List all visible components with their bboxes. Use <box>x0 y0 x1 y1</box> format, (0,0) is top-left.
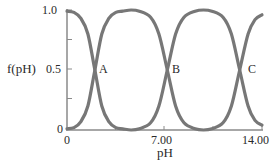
y-axis-title-text: f(pH) <box>7 61 36 76</box>
series-curves <box>67 10 262 130</box>
x-tick-label-14: 14.00 <box>242 134 269 146</box>
x-tick-label-0: 0 <box>64 134 70 146</box>
x-axis-title: pH <box>157 147 173 159</box>
chart-plot <box>0 0 280 161</box>
y-tick-label-0: 0 <box>57 123 63 135</box>
y-axis-title: f(pH) <box>7 63 36 75</box>
crossing-label-a: A <box>99 63 108 75</box>
curve-2-line <box>67 10 262 130</box>
crossing-label-b: B <box>172 63 180 75</box>
y-tick-label-1-0: 1.0 <box>42 4 57 16</box>
crossing-label-c: C <box>248 63 256 75</box>
y-tick-label-0-5: 0.5 <box>46 63 61 75</box>
